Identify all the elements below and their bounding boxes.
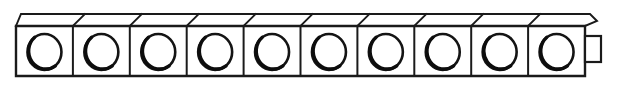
figure-canvas	[0, 0, 618, 92]
block-row-drawing	[0, 0, 618, 92]
right-tab-group	[585, 36, 601, 62]
right-tab-fill	[585, 36, 601, 62]
